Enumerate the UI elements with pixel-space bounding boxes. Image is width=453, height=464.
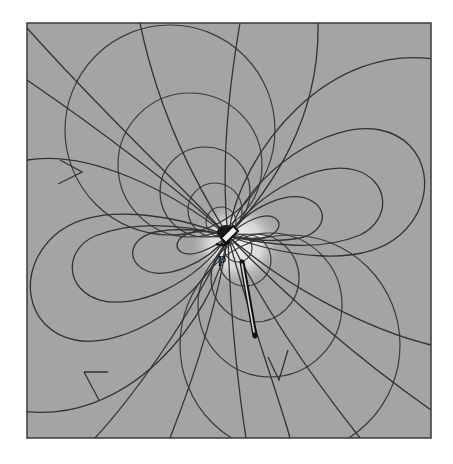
- dipole-label: p: [218, 251, 226, 266]
- dipole-field-diagram: p: [0, 0, 453, 464]
